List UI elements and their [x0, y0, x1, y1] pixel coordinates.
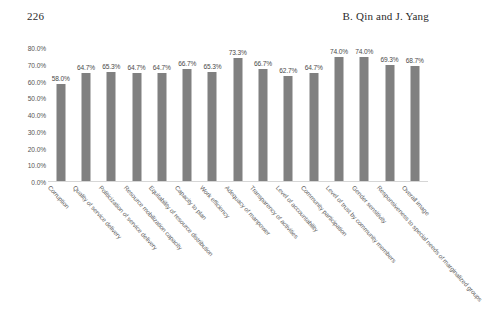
bar-slot: 74.0% — [326, 48, 351, 181]
bar-slot: 74.0% — [352, 48, 377, 181]
bar-value-label: 69.3% — [381, 56, 399, 63]
page-header: 226 B. Qin and J. Yang — [0, 10, 457, 26]
running-head-authors: B. Qin and J. Yang — [343, 10, 429, 22]
bar-slot: 64.7% — [149, 48, 174, 181]
bar[interactable] — [157, 73, 166, 181]
x-axis-category-labels: CorruptionQuality of service deliveryPol… — [48, 184, 448, 310]
bar[interactable] — [132, 73, 141, 181]
bar[interactable] — [56, 84, 65, 181]
bar-value-label: 64.7% — [153, 64, 171, 71]
bar[interactable] — [233, 58, 242, 181]
bar-value-label: 64.7% — [77, 64, 95, 71]
bar-slot: 66.7% — [250, 48, 275, 181]
bar[interactable] — [208, 72, 217, 181]
bar[interactable] — [360, 57, 369, 181]
bar-value-label: 64.7% — [128, 64, 146, 71]
bar-value-label: 73.3% — [229, 49, 247, 56]
bar-value-label: 74.0% — [330, 48, 348, 55]
bar-value-label: 58.0% — [52, 75, 70, 82]
bar-slot: 65.3% — [99, 48, 124, 181]
bar-slot: 58.0% — [48, 48, 73, 181]
bar[interactable] — [183, 69, 192, 181]
bar-slot: 64.7% — [301, 48, 326, 181]
x-axis-category-label: Quality of service delivery — [72, 184, 123, 240]
bar-value-label: 74.0% — [355, 48, 373, 55]
x-axis-category-label: Adequacy of manpower — [224, 184, 272, 236]
bar-value-label: 68.7% — [406, 57, 424, 64]
bar[interactable] — [309, 73, 318, 181]
x-axis-category-label: Corruption — [47, 184, 71, 210]
bar[interactable] — [259, 69, 268, 181]
bar-slot: 65.3% — [200, 48, 225, 181]
y-axis: 80.0%70.0%60.0%50.0%40.0%30.0%20.0%10.0%… — [12, 48, 46, 186]
bar[interactable] — [385, 65, 394, 181]
bar[interactable] — [334, 57, 343, 181]
y-axis-tick-label: 50.0% — [12, 95, 46, 102]
bar-slot: 66.7% — [175, 48, 200, 181]
bar[interactable] — [81, 73, 90, 181]
plot-area: 58.0%64.7%65.3%64.7%64.7%66.7%65.3%73.3%… — [48, 48, 428, 182]
bar-value-label: 64.7% — [305, 64, 323, 71]
bar-value-label: 66.7% — [178, 60, 196, 67]
bar-slot: 69.3% — [377, 48, 402, 181]
x-axis-category-label: Community participation — [300, 184, 349, 237]
x-axis-category-label: Responsiveness to special needs of margi… — [376, 184, 484, 303]
x-axis-category-label: Transparency of activities — [249, 184, 300, 240]
y-axis-tick-label: 0.0% — [12, 179, 46, 186]
bar-slot: 62.7% — [276, 48, 301, 181]
bar-value-label: 66.7% — [254, 60, 272, 67]
bar-chart: 80.0%70.0%60.0%50.0%40.0%30.0%20.0%10.0%… — [0, 38, 457, 314]
y-axis-tick-label: 30.0% — [12, 128, 46, 135]
x-axis-baseline — [48, 181, 428, 182]
y-axis-tick-label: 40.0% — [12, 112, 46, 119]
y-axis-tick-label: 10.0% — [12, 162, 46, 169]
bar-slot: 64.7% — [73, 48, 98, 181]
page-number: 226 — [27, 10, 44, 22]
bar[interactable] — [107, 72, 116, 181]
y-axis-tick-label: 80.0% — [12, 45, 46, 52]
bar-slot: 64.7% — [124, 48, 149, 181]
bar[interactable] — [284, 76, 293, 181]
bar-slot: 68.7% — [402, 48, 427, 181]
y-axis-tick-label: 20.0% — [12, 145, 46, 152]
bar-value-label: 62.7% — [279, 67, 297, 74]
y-axis-tick-label: 70.0% — [12, 61, 46, 68]
y-axis-tick-label: 60.0% — [12, 78, 46, 85]
bar-slot: 73.3% — [225, 48, 250, 181]
bar-value-label: 65.3% — [203, 63, 221, 70]
bar[interactable] — [410, 66, 419, 181]
bar-value-label: 65.3% — [102, 63, 120, 70]
